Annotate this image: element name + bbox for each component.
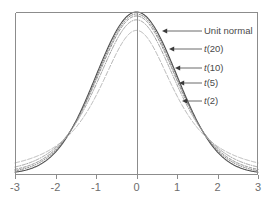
df-value: (20) bbox=[207, 43, 224, 54]
arrowhead-2 bbox=[175, 65, 180, 70]
series-label-unit-normal: Unit normal bbox=[204, 26, 253, 36]
x-tick-label-5: 2 bbox=[206, 181, 230, 193]
df-value: (10) bbox=[207, 62, 224, 73]
df-value: (5) bbox=[207, 77, 219, 88]
x-tick-label-2: -1 bbox=[84, 181, 108, 193]
series-label-t-5: t(5) bbox=[204, 78, 218, 88]
x-tick-label-4: 1 bbox=[165, 181, 189, 193]
arrowhead-1 bbox=[169, 46, 174, 51]
arrowhead-0 bbox=[162, 28, 167, 33]
df-value: (2) bbox=[207, 95, 219, 106]
x-tick-label-6: 3 bbox=[246, 181, 270, 193]
x-tick-label-1: -2 bbox=[44, 181, 68, 193]
series-label-t-2: t(2) bbox=[204, 96, 218, 106]
arrowhead-4 bbox=[182, 98, 187, 103]
x-tick-label-0: -3 bbox=[3, 181, 27, 193]
series-label-t-10: t(10) bbox=[204, 63, 224, 73]
x-tick-label-3: 0 bbox=[125, 181, 149, 193]
chart-figure: -3-2-10123 Unit normalt(20)t(10)t(5)t(2) bbox=[0, 0, 273, 200]
series-label-t-20: t(20) bbox=[204, 44, 224, 54]
